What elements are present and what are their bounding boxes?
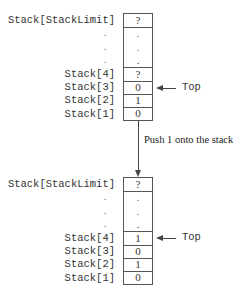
label-stack-3: Stack[3] [65,81,115,94]
label-stack-3: Stack[3] [65,245,115,258]
label-stack-2: Stack[2] [65,258,115,271]
push-arrow-line [138,121,139,171]
arrow-down-icon [135,170,141,177]
top-pointer-line [162,88,176,89]
label-stack-4: Stack[4] [65,68,115,81]
top-pointer-label: Top [182,231,201,244]
ellipsis-dot: . [100,26,110,39]
stack-box: ? . . . ? 0 1 0 [123,13,153,121]
ellipsis-dot: . [124,27,152,40]
ellipsis-dot: . [100,204,110,217]
label-stack-1: Stack[1] [65,108,115,121]
ellipsis-dot: . [124,191,152,204]
ellipsis-dot: . [100,217,110,230]
label-stack-4: Stack[4] [65,232,115,245]
ellipsis-dot: . [100,40,110,53]
cell-stack-1: 0 [124,271,152,284]
top-pointer-label: Top [182,81,201,94]
ellipsis-dot: . [124,205,152,218]
cell-stack-4: 1 [124,232,152,246]
cell-stack-limit: ? [124,178,152,192]
ellipsis-dot: . [100,53,110,66]
cell-stack-4: ? [124,68,152,82]
cell-stack-2: 1 [124,94,152,108]
cell-stack-3: 0 [124,81,152,95]
cell-stack-1: 0 [124,107,152,120]
ellipsis-dot: . [100,190,110,203]
label-stack-limit: Stack[StackLimit] [8,178,115,191]
cell-stack-3: 0 [124,245,152,259]
stack-box: ? . . . 1 0 1 0 [123,177,153,285]
label-stack-limit: Stack[StackLimit] [8,14,115,27]
cell-stack-2: 1 [124,258,152,272]
top-pointer-line [162,238,176,239]
label-stack-2: Stack[2] [65,94,115,107]
cell-stack-limit: ? [124,14,152,28]
ellipsis-dot: . [124,54,152,68]
ellipsis-dot: . [124,41,152,54]
operation-label: Push 1 onto the stack [144,134,233,145]
ellipsis-dot: . [124,218,152,232]
label-stack-1: Stack[1] [65,272,115,285]
